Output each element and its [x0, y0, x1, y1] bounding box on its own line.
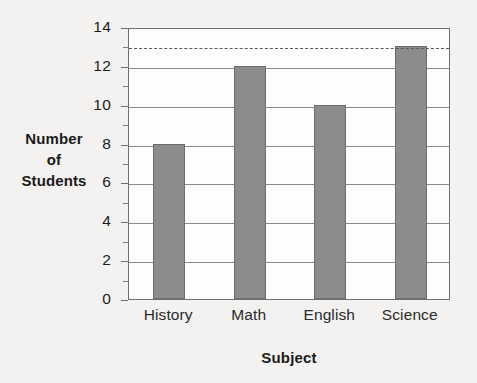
y-tick-label-6: 6	[83, 173, 111, 191]
y-minor-tick-3	[123, 242, 128, 243]
bar-history	[153, 144, 185, 299]
y-tick-label-8: 8	[83, 135, 111, 153]
y-minor-tick-1	[123, 281, 128, 282]
y-minor-tick-13	[123, 47, 128, 48]
bar-math	[234, 66, 266, 299]
bar-english	[314, 105, 346, 299]
x-tick-label-science: Science	[360, 306, 460, 324]
plot-area	[128, 28, 450, 300]
y-tick-label-12: 12	[83, 57, 111, 75]
y-minor-tick-11	[123, 86, 128, 87]
x-axis-title: Subject	[128, 349, 450, 366]
y-tick-14	[121, 28, 128, 29]
y-tick-label-10: 10	[83, 96, 111, 114]
y-tick-label-2: 2	[83, 251, 111, 269]
y-minor-tick-9	[123, 125, 128, 126]
y-tick-6	[121, 183, 128, 184]
y-tick-8	[121, 145, 128, 146]
y-tick-12	[121, 67, 128, 68]
reference-line-icon	[129, 48, 449, 49]
y-minor-tick-5	[123, 203, 128, 204]
y-tick-10	[121, 106, 128, 107]
y-tick-2	[121, 261, 128, 262]
y-tick-label-14: 14	[83, 18, 111, 36]
y-tick-4	[121, 222, 128, 223]
bar-science	[395, 46, 427, 299]
y-minor-tick-7	[123, 164, 128, 165]
y-tick-label-0: 0	[83, 290, 111, 308]
bar-chart-figure: Number of Students 02468101214 HistoryMa…	[0, 0, 477, 383]
y-tick-label-4: 4	[83, 212, 111, 230]
y-tick-0	[121, 300, 128, 301]
